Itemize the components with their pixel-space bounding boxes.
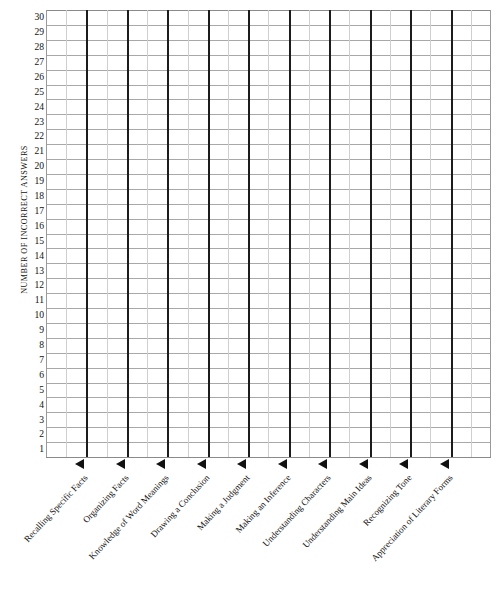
y-tick-26: 26	[22, 72, 44, 82]
y-tick-3: 3	[22, 415, 44, 425]
grid-major-line	[208, 10, 210, 457]
category-arrow-row	[46, 457, 491, 471]
y-tick-27: 27	[22, 57, 44, 67]
grid-border-line	[46, 10, 47, 457]
category-arrow-9[interactable]	[399, 459, 408, 469]
y-tick-25: 25	[22, 87, 44, 97]
category-arrow-8[interactable]	[359, 459, 368, 469]
y-tick-6: 6	[22, 370, 44, 380]
grid-minor-line	[349, 10, 350, 457]
y-tick-12: 12	[22, 280, 44, 290]
category-arrow-1[interactable]	[75, 459, 84, 469]
y-tick-24: 24	[22, 102, 44, 112]
y-tick-11: 11	[22, 295, 44, 305]
y-tick-14: 14	[22, 251, 44, 261]
grid-major-line	[410, 10, 412, 457]
y-tick-29: 29	[22, 27, 44, 37]
tally-chart: NUMBER OF INCORRECT ANSWERS 302928272625…	[0, 0, 499, 610]
grid-minor-line	[268, 10, 269, 457]
category-arrow-3[interactable]	[156, 459, 165, 469]
grid-major-line	[289, 10, 291, 457]
y-tick-15: 15	[22, 236, 44, 246]
y-tick-8: 8	[22, 340, 44, 350]
grid-major-line	[329, 10, 331, 457]
grid-minor-line	[228, 10, 229, 457]
y-tick-21: 21	[22, 146, 44, 156]
grid-minor-line	[471, 10, 472, 457]
grid-minor-line	[147, 10, 148, 457]
grid-major-line	[86, 10, 88, 457]
y-tick-2: 2	[22, 429, 44, 439]
y-tick-18: 18	[22, 191, 44, 201]
category-arrow-4[interactable]	[197, 459, 206, 469]
grid-minor-line	[66, 10, 67, 457]
category-arrow-2[interactable]	[116, 459, 125, 469]
grid-minor-line	[390, 10, 391, 457]
y-tick-10: 10	[22, 310, 44, 320]
y-tick-30: 30	[22, 12, 44, 22]
y-tick-22: 22	[22, 131, 44, 141]
grid-border-line	[490, 10, 491, 457]
grid-minor-line	[188, 10, 189, 457]
y-axis-tick-labels: 3029282726252423222120191817161514131211…	[22, 10, 44, 457]
y-tick-13: 13	[22, 266, 44, 276]
y-tick-9: 9	[22, 325, 44, 335]
plot-grid	[46, 10, 491, 457]
grid-minor-line	[107, 10, 108, 457]
category-arrow-10[interactable]	[440, 459, 449, 469]
y-tick-28: 28	[22, 42, 44, 52]
y-tick-16: 16	[22, 221, 44, 231]
y-tick-1: 1	[22, 444, 44, 454]
grid-major-line	[451, 10, 453, 457]
category-arrow-5[interactable]	[237, 459, 246, 469]
grid-major-line	[370, 10, 372, 457]
y-tick-4: 4	[22, 400, 44, 410]
y-tick-5: 5	[22, 385, 44, 395]
y-tick-7: 7	[22, 355, 44, 365]
y-tick-19: 19	[22, 176, 44, 186]
y-tick-20: 20	[22, 161, 44, 171]
grid-minor-line	[309, 10, 310, 457]
category-arrow-6[interactable]	[278, 459, 287, 469]
grid-major-line	[127, 10, 129, 457]
y-tick-23: 23	[22, 117, 44, 127]
category-arrow-7[interactable]	[318, 459, 327, 469]
y-tick-17: 17	[22, 206, 44, 216]
grid-major-line	[167, 10, 169, 457]
grid-major-line	[248, 10, 250, 457]
grid-minor-line	[430, 10, 431, 457]
